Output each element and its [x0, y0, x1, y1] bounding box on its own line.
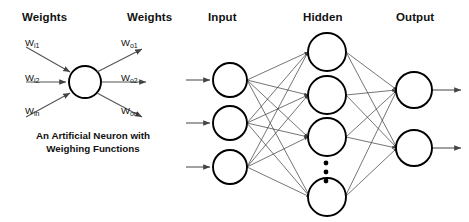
weight-sub-i1: i1 [34, 42, 39, 49]
hidden-node-3 [308, 118, 346, 156]
input-node-1 [213, 63, 247, 97]
weight-sub-o2: o2 [130, 77, 138, 84]
weight-base-on: W [121, 105, 130, 116]
figure-canvas [0, 0, 469, 222]
weight-label-in: Win [25, 106, 39, 116]
output-node-1 [396, 72, 432, 108]
hidden-layer-nodes [308, 33, 346, 216]
weight-base-o2: W [121, 72, 130, 83]
ellipsis-dot-1 [324, 161, 329, 166]
weight-sub-o1: o1 [130, 42, 138, 49]
weight-base-o1: W [121, 37, 130, 48]
input-node-3 [213, 150, 247, 184]
output-node-2 [396, 130, 432, 166]
weight-label-i2: Wi2 [25, 73, 39, 83]
neuron-caption-line-2: Weighing Functions [8, 142, 178, 155]
input-layer-nodes [213, 63, 247, 184]
hidden-node-2 [308, 76, 346, 114]
ellipsis-dot-3 [324, 179, 329, 184]
network-edges-hidden-output [345, 52, 397, 197]
weights-header-right: Weights [127, 12, 172, 24]
neuron-caption: An Artificial Neuron with Weighing Funct… [8, 129, 178, 155]
weight-sub-on: on [130, 110, 138, 117]
output-layer-nodes [396, 72, 432, 166]
layer-header-hidden: Hidden [303, 12, 343, 24]
weight-label-i1: Wi1 [25, 38, 39, 48]
weights-header-left: Weights [22, 12, 67, 24]
network-output-arrows [432, 90, 461, 148]
neuron-caption-line-1: An Artificial Neuron with [8, 129, 178, 142]
weight-label-o2: Wo2 [121, 73, 138, 83]
hidden-node-4 [308, 178, 346, 216]
weight-label-on: Won [121, 106, 138, 116]
weight-base-in: W [25, 105, 34, 116]
network-input-arrows [186, 80, 210, 167]
weight-sub-i2: i2 [34, 77, 39, 84]
hidden-node-1 [308, 33, 346, 71]
layer-header-input: Input [208, 12, 237, 24]
layer-header-output: Output [396, 12, 434, 24]
neuron-output-arrow-1 [97, 49, 142, 72]
weight-sub-in: in [34, 110, 39, 117]
hidden-layer-ellipsis [324, 161, 329, 184]
weight-label-o1: Wo1 [121, 38, 138, 48]
weight-base-i1: W [25, 37, 34, 48]
input-node-2 [213, 106, 247, 140]
weight-base-i2: W [25, 72, 34, 83]
network-edges-input-hidden [247, 52, 310, 197]
neuron-input-arrow-1 [26, 47, 70, 72]
artificial-neuron-node [69, 66, 101, 98]
ellipsis-dot-2 [324, 170, 329, 175]
neural-network-figure: Weights Weights Wi1 Wi2 Win Wo1 Wo2 Won … [0, 0, 469, 222]
